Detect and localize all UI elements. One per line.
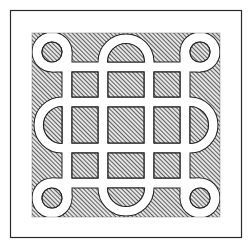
lattice-ornament: [0, 0, 252, 246]
lattice-bands: [37, 37, 215, 213]
